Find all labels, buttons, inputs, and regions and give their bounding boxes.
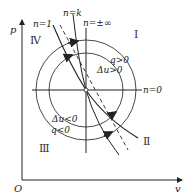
x-axis-label: v — [175, 183, 181, 194]
label-n1: n=1 — [33, 19, 52, 29]
origin-label: O — [14, 183, 22, 194]
state-point — [84, 88, 88, 92]
line-dashed — [60, 25, 128, 150]
label-du-neg: Δu<0 — [51, 114, 78, 124]
label-nk: n=k — [63, 8, 82, 18]
label-ninf: n=±∞ — [83, 18, 111, 28]
line-nk — [73, 14, 119, 155]
y-axis-label: p — [10, 24, 17, 35]
quadrant-II: Ⅱ — [143, 135, 150, 148]
quadrant-I: Ⅰ — [134, 28, 138, 41]
label-n0: n=0 — [143, 85, 162, 95]
quadrant-III: Ⅲ — [39, 142, 50, 155]
quadrant-IV: Ⅳ — [30, 34, 42, 47]
label-q-neg: q<0 — [51, 125, 70, 135]
label-q-pos: q>0 — [110, 55, 129, 65]
label-du-pos: Δu>0 — [96, 65, 123, 75]
pv-diagram: p v O n=1 n=k n=±∞ n=0 q>0 Δu>0 Δu<0 q<0… — [0, 0, 187, 195]
